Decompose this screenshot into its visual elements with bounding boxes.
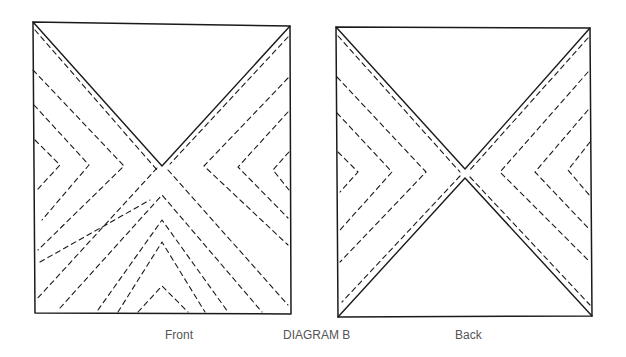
front-fold-v	[33, 22, 290, 166]
front-label: Front	[165, 328, 193, 342]
front-stitch-lines	[33, 30, 289, 312]
diagram-title: DIAGRAM B	[283, 328, 350, 342]
back-fold-x	[336, 27, 592, 317]
back-label: Back	[455, 328, 482, 342]
back-stitch-lines	[337, 36, 590, 305]
diagram-canvas	[0, 0, 626, 357]
back-panel	[336, 27, 592, 317]
front-panel	[33, 22, 291, 314]
